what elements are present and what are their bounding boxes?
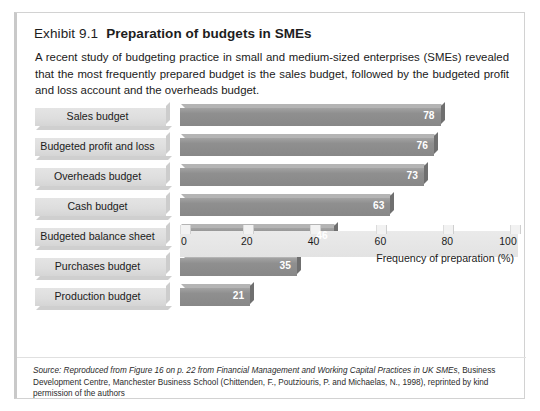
bar-row: Sales budget78 xyxy=(17,105,528,134)
axis-tick-label: 20 xyxy=(241,236,253,247)
data-bar: 63 xyxy=(180,198,390,216)
x-axis-title: Frequency of preparation (%) xyxy=(376,252,514,264)
category-label-plate: Budgeted balance sheet xyxy=(35,228,166,246)
axis-tick-label: 80 xyxy=(441,236,453,247)
bar-value-label: 35 xyxy=(280,260,291,271)
source-divider xyxy=(17,357,526,358)
category-label: Production budget xyxy=(35,290,160,302)
data-bar: 35 xyxy=(180,258,297,276)
bar-value-label: 76 xyxy=(416,140,427,151)
category-label: Purchases budget xyxy=(35,260,160,272)
chart-x-axis: Frequency of preparation (%) 02040608010… xyxy=(180,225,518,259)
bar-value-label: 21 xyxy=(233,290,244,301)
bar-side-face xyxy=(424,162,428,184)
source-work-title: Financial Management and Working Capital… xyxy=(216,366,457,375)
axis-tick-mark xyxy=(376,225,387,234)
bar-face xyxy=(180,168,424,186)
exhibit-header: Exhibit 9.1Preparation of budgets in SME… xyxy=(34,24,312,42)
bar-row: Budgeted profit and loss76 xyxy=(17,135,528,164)
category-label-plate: Cash budget xyxy=(35,198,166,216)
category-label: Overheads budget xyxy=(35,170,160,182)
source-note: Source: Reproduced from Figure 16 on p. … xyxy=(33,365,515,400)
bar-value-label: 73 xyxy=(406,170,417,181)
axis-tick-label: 60 xyxy=(375,236,387,247)
axis-tick-mark xyxy=(243,225,254,234)
bar-side-face xyxy=(390,192,394,214)
axis-tick-label: 0 xyxy=(181,236,187,247)
category-label: Cash budget xyxy=(35,200,160,212)
category-label-plate: Purchases budget xyxy=(35,258,166,276)
data-bar: 73 xyxy=(180,168,424,186)
bar-row: Production budget21 xyxy=(17,285,528,314)
data-bar: 21 xyxy=(180,288,250,306)
exhibit-label: Exhibit 9.1 xyxy=(34,26,98,41)
bar-face xyxy=(180,198,390,216)
axis-tick-mark xyxy=(443,225,454,234)
bar-value-label: 63 xyxy=(373,200,384,211)
axis-tick-mark xyxy=(510,225,521,234)
exhibit-title: Preparation of budgets in SMEs xyxy=(106,26,312,41)
category-label: Budgeted balance sheet xyxy=(35,230,160,242)
data-bar: 76 xyxy=(180,138,434,156)
category-label-plate: Budgeted profit and loss xyxy=(35,138,166,156)
bar-side-face xyxy=(250,282,254,304)
category-label-plate: Sales budget xyxy=(35,108,166,126)
bar-face xyxy=(180,108,441,126)
axis-tick-label: 100 xyxy=(499,236,516,247)
category-label-plate: Production budget xyxy=(35,288,166,306)
bar-side-face xyxy=(441,102,445,124)
bar-face xyxy=(180,138,434,156)
category-label-plate: Overheads budget xyxy=(35,168,166,186)
bar-side-face xyxy=(434,132,438,154)
bar-row: Cash budget63 xyxy=(17,195,528,224)
source-prefix: Source: Reproduced from Figure 16 on p. … xyxy=(33,366,216,375)
axis-tick-mark xyxy=(180,225,191,234)
bar-value-label: 46 xyxy=(316,230,327,241)
bar-row: Overheads budget73 xyxy=(17,165,528,194)
bar-value-label: 78 xyxy=(423,110,434,121)
data-bar: 78 xyxy=(180,108,441,126)
exhibit-intro-paragraph: A recent study of budgeting practice in … xyxy=(35,49,509,99)
category-label: Sales budget xyxy=(35,110,160,122)
exhibit-card: Exhibit 9.1Preparation of budgets in SME… xyxy=(14,12,525,399)
category-label: Budgeted profit and loss xyxy=(35,140,160,152)
